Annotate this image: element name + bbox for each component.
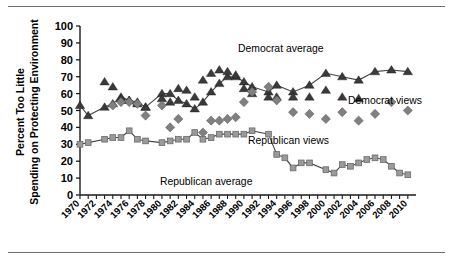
data-point-republican-average [184, 136, 190, 142]
x-tick-label: 2010 [386, 198, 409, 221]
data-point-republican-views [264, 82, 273, 91]
data-point-republican-views [223, 114, 232, 123]
data-point-republican-average [372, 155, 378, 161]
data-point-republican-average [323, 167, 329, 173]
y-axis-title-line1: Percent Too Little [14, 68, 26, 156]
data-point-republican-average [159, 140, 165, 146]
data-point-democrat-views [198, 76, 207, 83]
data-point-republican-views [108, 101, 117, 110]
data-point-democrat-average [387, 66, 396, 73]
data-point-republican-views [166, 123, 175, 132]
data-point-republican-average [208, 135, 214, 141]
data-point-republican-views [305, 109, 314, 118]
data-point-democrat-views [100, 77, 109, 84]
data-point-republican-average [175, 136, 181, 142]
y-tick-label: 20 [61, 155, 73, 167]
data-point-democrat-views [305, 93, 314, 100]
y-tick-label: 30 [61, 138, 73, 150]
data-point-republican-views [157, 101, 166, 110]
y-tick-label: 100 [55, 20, 73, 32]
data-point-democrat-average [165, 89, 174, 96]
data-point-republican-average [356, 160, 362, 166]
data-point-republican-average [118, 135, 124, 141]
y-tick-label: 40 [61, 121, 73, 133]
chart-container: 0102030405060708090100197019721974197619… [0, 0, 453, 266]
data-point-democrat-average [182, 99, 191, 106]
data-point-republican-average [110, 135, 116, 141]
data-point-republican-average [290, 165, 296, 171]
y-tick-label: 60 [61, 88, 73, 100]
y-tick-label: 10 [61, 172, 73, 184]
data-point-democrat-views [206, 69, 215, 76]
data-point-democrat-views [231, 71, 240, 78]
data-point-democrat-average [305, 81, 314, 88]
data-point-republican-average [135, 136, 141, 142]
data-point-republican-average [331, 170, 337, 176]
data-point-republican-average [282, 155, 288, 161]
data-point-republican-views [215, 116, 224, 125]
data-point-republican-average [143, 138, 149, 144]
data-point-democrat-average [239, 77, 248, 84]
data-point-democrat-views [182, 86, 191, 93]
data-point-democrat-average [321, 69, 330, 76]
y-tick-label: 50 [61, 105, 73, 117]
data-point-republican-average [126, 128, 132, 134]
data-point-republican-views [370, 109, 379, 118]
data-point-republican-views [354, 116, 363, 125]
data-point-democrat-views [174, 84, 183, 91]
annotation-republican-average: Republican average [160, 176, 253, 187]
data-point-republican-average [225, 131, 231, 137]
data-point-republican-average [348, 163, 354, 169]
data-point-democrat-views [215, 66, 224, 73]
data-point-republican-views [239, 97, 248, 106]
data-point-republican-average [364, 157, 370, 163]
data-point-democrat-views [108, 83, 117, 90]
data-point-republican-average [192, 130, 198, 136]
annotation-democrat-views: Democrat views [348, 95, 422, 106]
data-point-democrat-average [272, 81, 281, 88]
data-point-republican-views [198, 128, 207, 137]
y-tick-label: 90 [61, 37, 73, 49]
data-point-republican-views [288, 108, 297, 117]
data-point-democrat-views [223, 67, 232, 74]
data-point-republican-average [339, 162, 345, 168]
data-point-republican-views [141, 111, 150, 120]
data-point-republican-average [405, 172, 411, 178]
annotation-republican-views: Republican views [248, 135, 329, 146]
data-point-democrat-views [321, 86, 330, 93]
data-point-democrat-average [75, 101, 84, 108]
data-point-republican-average [397, 170, 403, 176]
data-point-democrat-views [239, 84, 248, 91]
data-point-republican-average [298, 160, 304, 166]
y-tick-label: 70 [61, 71, 73, 83]
data-point-republican-views [174, 114, 183, 123]
data-point-republican-views [338, 108, 347, 117]
data-point-democrat-average [100, 103, 109, 110]
data-point-republican-average [200, 136, 206, 142]
data-point-republican-average [380, 157, 386, 163]
data-point-republican-average [85, 140, 91, 146]
chart-svg: 0102030405060708090100197019721974197619… [0, 0, 453, 266]
data-point-republican-views [272, 96, 281, 105]
data-point-republican-average [77, 141, 83, 147]
data-point-republican-average [233, 131, 239, 137]
data-point-republican-average [167, 138, 173, 144]
data-point-republican-average [307, 160, 313, 166]
data-point-republican-average [249, 128, 255, 134]
data-point-republican-average [102, 136, 108, 142]
data-point-republican-average [274, 152, 280, 158]
data-point-republican-views [207, 116, 216, 125]
data-point-republican-views [231, 113, 240, 122]
data-point-republican-average [389, 163, 395, 169]
data-point-democrat-views [338, 93, 347, 100]
data-point-republican-average [241, 131, 247, 137]
data-point-republican-average [216, 131, 222, 137]
annotation-democrat-average: Democrat average [238, 43, 324, 54]
data-point-republican-views [321, 114, 330, 123]
data-point-democrat-views [165, 98, 174, 105]
y-tick-label: 80 [61, 54, 73, 66]
y-axis-title-line2: Spending on Protecting Environment [28, 19, 40, 205]
data-point-republican-views [403, 106, 412, 115]
data-point-democrat-views [190, 93, 199, 100]
